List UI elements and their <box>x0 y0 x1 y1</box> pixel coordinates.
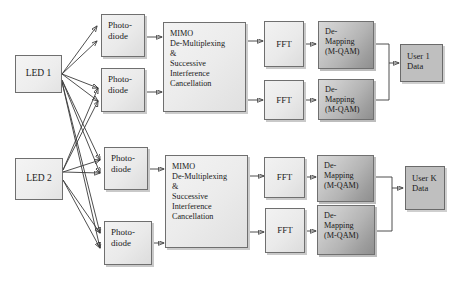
photodiode-2-block[interactable]: Photo- diode <box>101 68 145 112</box>
user-k-data-block[interactable]: User K Data <box>405 166 445 210</box>
mimo-to-fft-links <box>246 41 264 232</box>
block-diagram-canvas: LED 1 LED 2 Photo- diode Photo- diode Ph… <box>0 0 458 281</box>
demapping-block-1[interactable]: De- Mapping (M-QAM) <box>318 21 374 69</box>
demapping-block-2[interactable]: De- Mapping (M-QAM) <box>318 79 374 120</box>
photodiode-to-mimo-links <box>145 37 164 243</box>
fft-block-1[interactable]: FFT <box>264 21 304 67</box>
led1-broadcast-links <box>62 26 100 248</box>
mimo-block-2[interactable]: MIMO De-Multiplexing & Successive Interf… <box>165 155 248 248</box>
demapping-block-3[interactable]: De- Mapping (M-QAM) <box>317 155 374 202</box>
fft-to-demapping-links <box>304 44 316 231</box>
demapping-to-user1-links <box>374 44 399 100</box>
fft-2-label: FFT <box>276 95 292 106</box>
demapping-to-userk-links <box>374 177 403 231</box>
photodiode-1-block[interactable]: Photo- diode <box>101 14 145 57</box>
fft-4-label: FFT <box>277 225 293 236</box>
photodiode-3-block[interactable]: Photo- diode <box>104 147 148 190</box>
fft-block-2[interactable]: FFT <box>264 80 304 120</box>
photodiode-4-block[interactable]: Photo- diode <box>104 221 152 265</box>
fft-block-3[interactable]: FFT <box>264 157 305 198</box>
led-2-block[interactable]: LED 2 <box>15 158 63 200</box>
fft-3-label: FFT <box>277 172 293 183</box>
mimo-block-1[interactable]: MIMO De-Multiplexing & Successive Interf… <box>163 22 246 112</box>
fft-block-4[interactable]: FFT <box>265 208 305 253</box>
led-2-label: LED 2 <box>26 173 52 185</box>
led-1-label: LED 1 <box>26 68 52 80</box>
demapping-block-4[interactable]: De- Mapping (M-QAM) <box>317 205 375 255</box>
user-1-data-block[interactable]: User 1 Data <box>400 44 443 82</box>
fft-1-label: FFT <box>276 39 292 50</box>
led-1-block[interactable]: LED 1 <box>15 55 62 93</box>
